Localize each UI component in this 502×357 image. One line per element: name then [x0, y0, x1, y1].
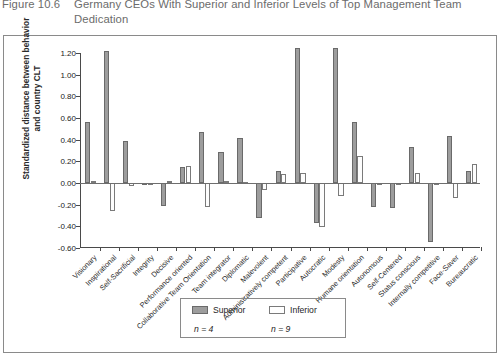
bar-inferior: [357, 156, 362, 183]
y-axis-tick-label: -0.20: [52, 200, 76, 209]
legend-item-superior: Superior: [192, 300, 245, 320]
y-axis-tick-mark: [76, 205, 80, 206]
y-axis-tick-label: 0.60: [52, 114, 76, 123]
y-axis-tick-mark: [76, 53, 80, 54]
bar-inferior: [338, 183, 343, 196]
y-axis-tick-mark: [76, 140, 80, 141]
bars-layer: [81, 53, 480, 247]
legend-label-superior: Superior: [213, 305, 245, 315]
bar-superior: [295, 48, 300, 183]
legend-item-inferior: Inferior: [269, 300, 317, 320]
legend-n-inferior: n = 9: [271, 319, 290, 339]
figure-panel: Standardized distance between behavior a…: [3, 35, 497, 353]
bar-superior: [104, 51, 109, 183]
bar-superior: [123, 141, 128, 183]
bar-superior: [390, 183, 395, 208]
bar-superior: [85, 122, 90, 183]
bar-superior: [276, 171, 281, 183]
bar-superior: [218, 152, 223, 183]
y-axis-tick-label: 1.20: [52, 49, 76, 58]
legend-n-row: n = 4 n = 9: [181, 319, 345, 339]
bar-superior: [352, 122, 357, 183]
bar-superior: [161, 183, 166, 206]
y-axis-tick-label: 0.20: [52, 157, 76, 166]
bar-superior: [409, 147, 414, 183]
legend-n-superior: n = 4: [194, 319, 213, 339]
y-axis-tick-mark: [76, 96, 80, 97]
bar-inferior: [453, 183, 458, 198]
y-axis-tick-mark: [76, 161, 80, 162]
y-axis-tick-mark: [76, 226, 80, 227]
y-axis-tick-mark: [76, 118, 80, 119]
bar-superior: [428, 183, 433, 242]
bar-inferior: [186, 166, 191, 183]
y-axis-tick-label: 0.00: [52, 179, 76, 188]
bar-superior: [314, 183, 319, 223]
bar-inferior: [319, 183, 324, 227]
bar-inferior: [300, 173, 305, 183]
y-axis-tick-label: 1.00: [52, 70, 76, 79]
bar-inferior: [281, 174, 286, 183]
bar-inferior: [472, 164, 477, 184]
bar-superior: [371, 183, 376, 207]
legend-swatch-row: Superior Inferior: [181, 300, 345, 320]
chart-legend: Superior Inferior n = 4 n = 9: [180, 298, 346, 338]
legend-label-inferior: Inferior: [290, 305, 317, 315]
legend-swatch-superior-icon: [192, 306, 208, 314]
y-axis-tick-mark: [76, 75, 80, 76]
bar-inferior: [205, 183, 210, 207]
bar-superior: [237, 138, 242, 184]
bar-superior: [180, 167, 185, 183]
zero-baseline: [80, 183, 480, 184]
y-axis-tick-label: 0.80: [52, 92, 76, 101]
y-axis-tick-label: -0.60: [52, 244, 76, 253]
bar-superior: [256, 183, 261, 218]
plot-area: [80, 53, 480, 248]
bar-superior: [466, 171, 471, 183]
y-axis-title: Standardized distance between behavior a…: [21, 10, 42, 188]
bar-inferior: [415, 173, 420, 183]
bar-inferior: [110, 183, 115, 211]
y-axis-tick-label: 0.40: [52, 135, 76, 144]
y-axis-tick-label: -0.40: [52, 222, 76, 231]
figure-title: Germany CEOs With Superior and Inferior …: [74, 0, 494, 26]
legend-swatch-inferior-icon: [269, 306, 285, 314]
bar-superior: [447, 136, 452, 183]
bar-superior: [333, 48, 338, 183]
bar-superior: [199, 132, 204, 183]
